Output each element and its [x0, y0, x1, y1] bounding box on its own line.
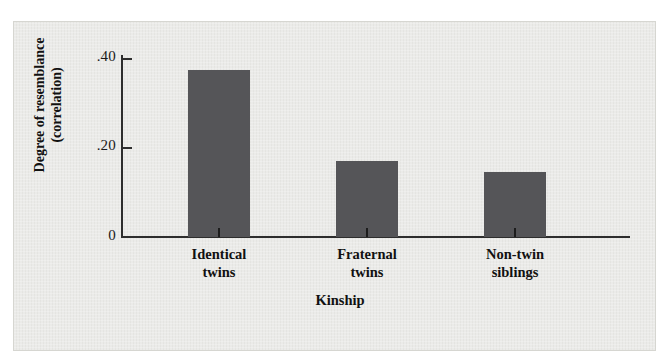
x-axis-tick-1 [366, 228, 368, 237]
y-axis-title-line2: (correlation) [48, 10, 65, 200]
category-label-line2: twins [144, 263, 294, 281]
x-axis-category-label-1: Fraternal twins [292, 245, 442, 281]
y-axis-tick-20 [123, 147, 132, 149]
category-label-line2: siblings [440, 263, 590, 281]
category-label-line1: Fraternal [337, 246, 397, 262]
figure-frame-right [655, 21, 656, 351]
y-axis-title: Degree of resemblance (correlation) [31, 10, 65, 200]
x-axis-tick-2 [514, 228, 516, 237]
bar-fraternal-twins [336, 161, 398, 237]
x-axis-category-label-2: Non-twin siblings [440, 245, 590, 281]
y-axis-title-line1: Degree of resemblance [32, 38, 47, 173]
x-axis-tick-0 [218, 228, 220, 237]
figure-frame-top [13, 21, 656, 22]
category-label-line2: twins [292, 263, 442, 281]
figure-frame-bottom [13, 350, 656, 351]
x-axis-category-label-0: Identical twins [144, 245, 294, 281]
chart-page: .40 .20 0 Degree of resemblance (correla… [0, 0, 669, 360]
category-label-line1: Non-twin [486, 246, 544, 262]
figure-frame-left [13, 21, 14, 351]
y-axis-tick-40 [123, 58, 132, 60]
category-label-line1: Identical [192, 246, 247, 262]
y-axis-tick-label-0: 0 [86, 227, 116, 244]
y-axis-tick-label-40: .40 [86, 48, 116, 65]
x-axis-title: Kinship [265, 292, 415, 309]
y-axis-tick-label-20: .20 [86, 137, 116, 154]
bar-identical-twins [188, 70, 250, 237]
